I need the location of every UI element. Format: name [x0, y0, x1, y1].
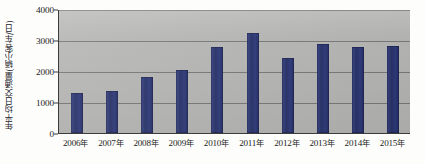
y-tick-label: 2000	[36, 67, 54, 77]
bar	[247, 33, 259, 133]
plot-area	[58, 10, 410, 134]
x-tick-label: 2006年	[63, 136, 88, 148]
bar	[211, 47, 223, 133]
y-tick-label: 3000	[36, 36, 54, 46]
x-tick-label: 2008年	[133, 136, 158, 148]
x-axis-ticks: 2006年2007年2008年2009年2010年2011年2012年2013年…	[58, 136, 410, 156]
x-tick-label: 2012年	[274, 136, 299, 148]
y-tick-label: 1000	[36, 98, 54, 108]
bar	[387, 46, 399, 133]
bar	[141, 77, 153, 133]
x-tick-label: 2014年	[345, 136, 370, 148]
bar	[352, 47, 364, 133]
chart-figure: 年平均日交通量(辆小客车/日) 01000200030004000 2006年2…	[0, 0, 425, 164]
bar	[176, 70, 188, 133]
x-tick-label: 2015年	[380, 136, 405, 148]
y-axis-title-text: 年平均日交通量(辆小客车/日)	[4, 20, 16, 130]
x-tick-label: 2010年	[204, 136, 229, 148]
x-tick-label: 2009年	[169, 136, 194, 148]
x-tick-label: 2013年	[309, 136, 334, 148]
bar	[71, 93, 83, 133]
bar	[317, 44, 329, 133]
x-tick-label: 2007年	[98, 136, 123, 148]
y-axis-ticks: 01000200030004000	[20, 10, 58, 134]
gridline	[59, 10, 410, 11]
y-tick-label: 4000	[36, 5, 54, 15]
bar	[106, 91, 118, 133]
bar	[282, 58, 294, 133]
y-axis-title: 年平均日交通量(辆小客车/日)	[0, 0, 20, 150]
x-tick-label: 2011年	[239, 136, 264, 148]
gridline	[59, 41, 410, 42]
